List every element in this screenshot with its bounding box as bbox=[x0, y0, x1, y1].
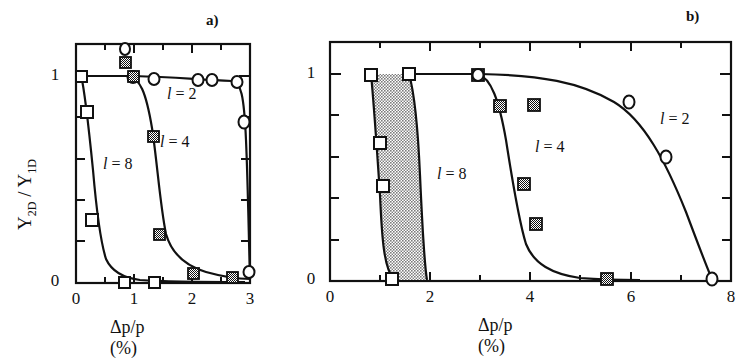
ylabel-Y1: Y bbox=[14, 216, 35, 230]
panel-b-x-ticks-top bbox=[380, 42, 681, 51]
panel-b-x-ticks bbox=[330, 272, 731, 281]
panel-b-xtick-4: 4 bbox=[515, 287, 545, 307]
panel-b-ytick-0: 0 bbox=[300, 269, 322, 289]
panel-a-curve-l8 bbox=[81, 75, 245, 282]
panel-b-l2-var: l bbox=[660, 110, 664, 127]
panel-a-ytick-1: 1 bbox=[44, 65, 66, 85]
panel-a-xtick-0: 0 bbox=[61, 289, 91, 309]
panel-b-markers-l4 bbox=[472, 69, 613, 285]
figure-root: a) bbox=[0, 0, 751, 360]
panel-b-xlabel: Δp/p (%) bbox=[478, 315, 513, 357]
panel-a-markers-l8 bbox=[76, 71, 160, 288]
panel-b-markers-l8 bbox=[365, 68, 415, 285]
panel-a-label-l8: l = 8 bbox=[103, 155, 132, 173]
panel-b-label-l8: l = 8 bbox=[437, 165, 466, 183]
panel-b-curve-l8-right bbox=[409, 74, 427, 280]
panel-b-l2-eq: = 2 bbox=[668, 110, 689, 127]
panel-b-curve-l8-left bbox=[371, 74, 394, 280]
panel-a-l2-var: l bbox=[167, 85, 171, 102]
panel-b-xtick-0: 0 bbox=[315, 287, 345, 307]
panel-a-xlabel: Δp/p (%) bbox=[110, 317, 145, 359]
panel-a-label-l4: l = 4 bbox=[160, 133, 189, 151]
ylabel-slash: / Y bbox=[14, 174, 35, 202]
panel-b-shaded-band-l8 bbox=[371, 74, 427, 280]
panel-a-l8-var: l bbox=[103, 155, 107, 172]
panel-b-xtick-2: 2 bbox=[415, 287, 445, 307]
panel-b-l8-eq: = 8 bbox=[445, 165, 466, 182]
panel-a-l2-eq: = 2 bbox=[175, 85, 196, 102]
panel-b-xtick-6: 6 bbox=[616, 287, 646, 307]
panel-a-xtick-2: 2 bbox=[177, 289, 207, 309]
panel-b-l4-eq: = 4 bbox=[543, 138, 564, 155]
panel-b-tag: b) bbox=[686, 8, 699, 25]
panel-a-ylabel: Y2D / Y1D bbox=[14, 159, 40, 230]
panel-a-curve-l4 bbox=[79, 76, 250, 279]
panel-a-label-l2: l = 2 bbox=[167, 85, 196, 103]
panel-a-tag: a) bbox=[206, 12, 219, 29]
panel-a-l4-eq: = 4 bbox=[168, 133, 189, 150]
panel-a-l4-var: l bbox=[160, 133, 164, 150]
panel-b-l4-var: l bbox=[535, 138, 539, 155]
panel-a-x-ticks-top bbox=[105, 44, 221, 53]
panel-a-markers-l2 bbox=[120, 43, 255, 278]
ylabel-sub-1d: 1D bbox=[25, 159, 39, 174]
panel-b-label-l2: l = 2 bbox=[660, 110, 689, 128]
panel-a-l8-eq: = 8 bbox=[111, 155, 132, 172]
panel-b-y-ticks bbox=[330, 74, 731, 240]
panel-a-curve-l2 bbox=[79, 76, 250, 276]
panel-b-markers-l2 bbox=[473, 69, 718, 286]
panel-b-l8-var: l bbox=[437, 165, 441, 182]
panel-a-xtick-1: 1 bbox=[119, 289, 149, 309]
panel-a-x-ticks bbox=[76, 274, 250, 283]
panel-a-xtick-3: 3 bbox=[235, 289, 265, 309]
panel-b-xtick-8: 8 bbox=[716, 287, 746, 307]
ylabel-sub-2d: 2D bbox=[25, 202, 39, 217]
panel-b-ytick-1: 1 bbox=[300, 63, 322, 83]
panel-b-frame bbox=[330, 42, 731, 281]
panel-a-ytick-0: 0 bbox=[44, 271, 66, 291]
panel-b-label-l4: l = 4 bbox=[535, 138, 564, 156]
